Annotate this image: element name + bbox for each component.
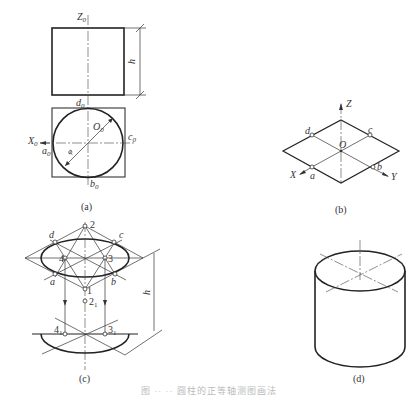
x0-label: X0 — [27, 135, 38, 148]
point-a — [310, 165, 314, 169]
label-b: b — [111, 276, 116, 287]
figure-title-caption: 图 ·· ·· 圆柱的正等轴测图画法 — [0, 384, 418, 396]
point-3-1 — [103, 332, 107, 336]
c-label: c — [368, 124, 373, 135]
label-3: 3 — [108, 253, 113, 264]
panel-b: Z d c O X a b Y (b) — [283, 98, 399, 216]
label-2: 2 — [90, 219, 95, 230]
panel-a: h Z0 φ d0 O0 c0 X0 a0 b0 (a) — [27, 11, 146, 213]
x-label: X — [289, 169, 297, 180]
b-label: b — [377, 161, 382, 172]
construction-line-1d — [55, 242, 85, 289]
point-2 — [83, 224, 87, 228]
z0-label: Z0 — [77, 11, 87, 24]
point-c-c — [112, 240, 116, 244]
y-label: Y — [391, 171, 398, 182]
panel-c: h 2 d c 4 3 a b 1 21 41 31 (c) — [25, 219, 162, 385]
label-2-1: 21 — [89, 296, 98, 309]
height-label-c: h — [141, 290, 152, 295]
z-label: Z — [346, 98, 352, 109]
c0-label: c0 — [128, 131, 136, 144]
diameter-label: φ — [65, 147, 75, 157]
b0-label: b0 — [90, 178, 99, 191]
panel-d: (d) — [315, 240, 405, 385]
construction-line-2b — [85, 226, 115, 274]
label-4: 4 — [59, 253, 64, 264]
caption-b: (b) — [335, 204, 347, 216]
label-a: a — [50, 276, 55, 287]
z-arrowhead — [339, 103, 343, 110]
point-d-c — [53, 240, 57, 244]
a-label: a — [310, 170, 315, 181]
origin-label: O — [339, 139, 346, 150]
diameter-line — [65, 118, 113, 166]
origin-point — [340, 150, 342, 152]
label-d: d — [49, 229, 55, 240]
y-arrowhead — [382, 172, 389, 177]
point-d — [310, 133, 314, 137]
cylinder-bottom-arc — [315, 347, 405, 367]
label-c: c — [119, 229, 124, 240]
caption-a: (a) — [81, 201, 92, 213]
label-4-1: 41 — [54, 324, 63, 337]
translate-arrow-4 — [63, 300, 67, 306]
label-1: 1 — [87, 285, 92, 296]
figure-canvas: h Z0 φ d0 O0 c0 X0 a0 b0 (a) — [0, 0, 418, 396]
height-extension-c-top — [143, 249, 160, 258]
height-label: h — [126, 59, 137, 64]
point-2-1 — [83, 299, 87, 303]
point-4-1 — [63, 332, 67, 336]
point-b — [371, 165, 375, 169]
label-3-1: 31 — [108, 324, 117, 337]
a0-label: a0 — [42, 145, 51, 158]
translate-arrow-3 — [103, 300, 107, 306]
